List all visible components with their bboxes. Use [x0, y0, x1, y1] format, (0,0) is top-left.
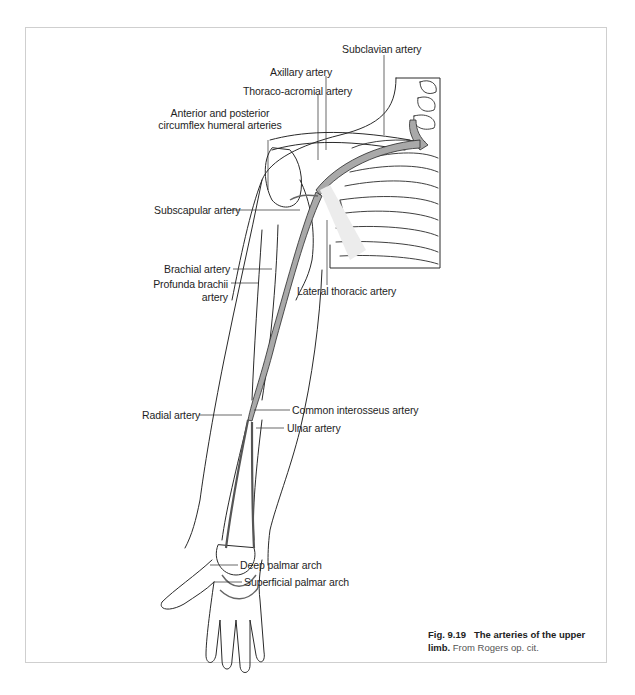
arm-outline-medial — [268, 270, 322, 565]
axillary-artery — [316, 140, 420, 195]
arm-outline-lateral — [185, 180, 262, 548]
radial-artery-path — [226, 420, 248, 548]
label-superficial-palmar-arch: Superficial palmar arch — [244, 576, 349, 588]
upper-limb-arteries-illustration — [0, 0, 635, 695]
label-subscapular-artery: Subscapular artery — [154, 204, 240, 216]
label-common-interosseus-artery: Common interosseus artery — [292, 404, 418, 416]
label-radial-artery: Radial artery — [142, 409, 200, 421]
brachial-artery-path — [248, 192, 322, 421]
label-profunda-brachii-line2: artery — [140, 291, 228, 303]
label-brachial-artery: Brachial artery — [164, 263, 230, 275]
label-circumflex-humeral-line2: circumflex humeral arteries — [155, 119, 285, 131]
thumb — [161, 560, 214, 609]
label-deep-palmar-arch: Deep palmar arch — [240, 559, 322, 571]
caption-source: From Rogers op. cit. — [453, 642, 539, 653]
ulnar-artery-path — [252, 422, 254, 548]
label-profunda-brachii-line1: Profunda brachii — [140, 278, 228, 290]
label-thoraco-acromial-artery: Thoraco-acromial artery — [243, 85, 352, 97]
label-ulnar-artery: Ulnar artery — [287, 422, 341, 434]
figure-caption: Fig. 9.19 The arteries of the upper limb… — [428, 628, 608, 654]
leader-lines — [199, 55, 384, 582]
label-lateral-thoracic-artery: Lateral thoracic artery — [297, 285, 396, 297]
caption-title-part1: The arteries of the upper — [474, 629, 585, 640]
label-circumflex-humeral-line1: Anterior and posterior — [160, 107, 280, 119]
vertebrae — [414, 81, 437, 130]
label-subclavian-artery: Subclavian artery — [342, 43, 421, 55]
caption-figure-number: Fig. 9.19 — [428, 629, 466, 640]
ulna — [253, 420, 262, 540]
label-axillary-artery: Axillary artery — [270, 66, 332, 78]
caption-title-part2: limb. — [428, 642, 450, 653]
